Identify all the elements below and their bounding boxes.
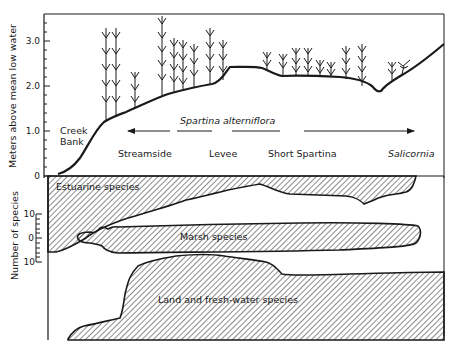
y-tick-2: 2.0 — [26, 81, 41, 91]
plant-icon — [279, 54, 287, 75]
scale-tick-bottom: 10 — [24, 257, 36, 267]
plant-icon — [179, 40, 187, 90]
zone-label-streamside: Streamside — [118, 148, 172, 159]
zone-label-creek: Creek — [60, 125, 88, 136]
plant-icon — [158, 16, 166, 96]
plant-icon — [327, 62, 335, 77]
y-tick-3: 3.0 — [26, 36, 41, 46]
elevation-axis-title: Meters above mean low water — [7, 24, 18, 168]
plant-icon — [316, 60, 324, 76]
estuarine-species-label: Estuarine species — [56, 181, 139, 192]
y-tick-1: 1.0 — [26, 126, 41, 136]
plant-icon — [263, 52, 271, 70]
zone-label-salicornia: Salicornia — [388, 148, 435, 159]
species-scale-bar — [36, 214, 42, 262]
plant-icon — [342, 46, 350, 79]
species-axis-title: Number of species — [9, 191, 20, 280]
plant-icon — [190, 44, 198, 88]
zone-label-bank: Bank — [60, 136, 84, 147]
elevation-panel: 0 1.0 2.0 3.0 Meters above mean low wate… — [7, 14, 444, 181]
plant-icon — [131, 72, 139, 108]
plant-icon — [206, 28, 214, 84]
spartina-alterniflora-label: Spartina alterniflora — [180, 115, 275, 126]
plant-icon — [112, 28, 120, 116]
zone-label-levee: Levee — [209, 148, 237, 159]
plant-icon — [170, 38, 178, 92]
scale-tick-mid: 0 — [28, 233, 34, 243]
plant-icon — [304, 48, 312, 76]
species-panel: Estuarine species Marsh species Land and… — [9, 176, 444, 340]
salicornia-plant-icon — [388, 62, 396, 80]
salt-marsh-profile-figure: 0 1.0 2.0 3.0 Meters above mean low wate… — [0, 0, 452, 352]
plant-icon — [292, 48, 300, 76]
elevation-axis-ticks — [44, 23, 50, 176]
scale-tick-top: 10 — [24, 209, 36, 219]
plant-icon — [102, 28, 110, 120]
marsh-species-band — [78, 223, 421, 253]
land-species-label: Land and fresh-water species — [158, 294, 298, 305]
y-tick-0: 0 — [34, 171, 40, 181]
zone-label-short-spartina: Short Spartina — [268, 148, 337, 159]
marsh-species-label: Marsh species — [180, 231, 247, 242]
